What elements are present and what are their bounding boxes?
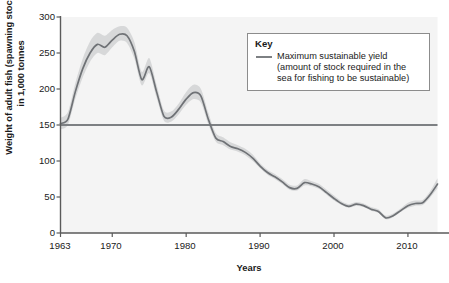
legend-title: Key [255,38,423,49]
legend-entry-label-line-3: sea for fishing to be sustainable) [277,73,409,84]
chart-figure: Weight of adult fish (spawning stock) in… [0,0,449,283]
legend-entry-label-line-2: (amount of stock required in the [277,62,409,73]
legend-entry: Maximum sustainable yield (amount of sto… [255,51,423,85]
legend-entry-label-line-1: Maximum sustainable yield [277,51,409,62]
chart-legend: Key Maximum sustainable yield (amount of… [247,33,430,91]
legend-entry-label: Maximum sustainable yield (amount of sto… [277,51,409,85]
line-swatch-icon [256,56,272,58]
cropped-caption-fragment [14,271,434,282]
